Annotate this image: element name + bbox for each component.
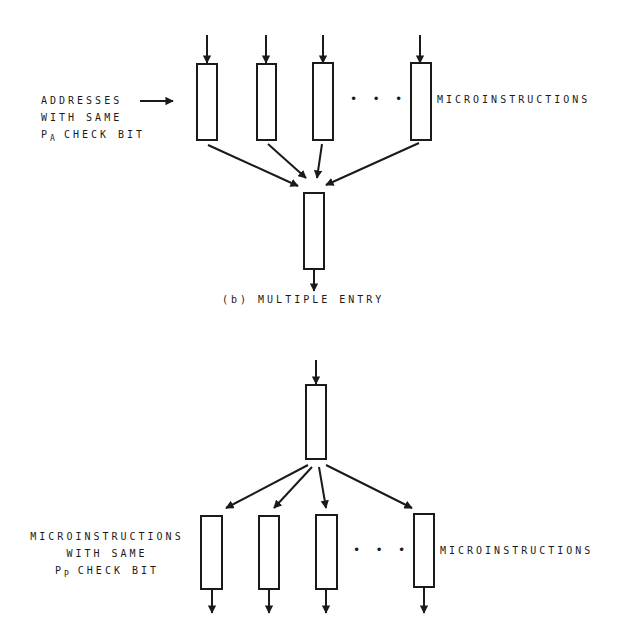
microinstruction-box	[201, 516, 222, 589]
microinstruction-box	[313, 63, 333, 140]
microinstruction-box	[316, 515, 337, 589]
pp-symbol: P	[55, 565, 64, 576]
converge-arrow	[317, 144, 322, 178]
bottom-label-line1: MICROINSTRUCTIONS	[22, 528, 192, 545]
microinstructions-label-top: MICROINSTRUCTIONS	[437, 91, 590, 108]
microinstruction-box	[411, 63, 431, 140]
bottom-label-line2: WITH SAME	[22, 545, 192, 562]
microinstruction-box	[259, 516, 279, 589]
microinstruction-box	[414, 514, 434, 587]
converge-arrow	[268, 144, 306, 178]
branch-source-box	[306, 385, 326, 459]
microinstructions-same-check-label: MICROINSTRUCTIONS WITH SAME PP CHECK BIT	[22, 528, 192, 583]
multiple-entry-diagram	[140, 35, 431, 291]
pa-symbol: P	[41, 129, 50, 140]
check-bit-text: CHECK BIT	[55, 129, 145, 140]
microinstruction-box	[257, 64, 276, 140]
diverge-arrow	[319, 467, 326, 508]
diverge-arrow	[226, 465, 308, 508]
figure-caption: (b) MULTIPLE ENTRY	[222, 291, 384, 308]
ellipsis: • • •	[353, 542, 409, 559]
microinstructions-label-bottom: MICROINSTRUCTIONS	[440, 542, 593, 559]
multiple-exit-diagram	[201, 360, 434, 613]
shared-entry-box	[304, 193, 324, 269]
check-bit-text: CHECK BIT	[69, 565, 159, 576]
diverge-arrow	[326, 465, 412, 508]
addresses-label-line3: PA CHECK BIT	[41, 126, 145, 147]
ellipsis: • • •	[350, 91, 406, 108]
addresses-label-line2: WITH SAME	[41, 109, 145, 126]
converge-arrow	[208, 145, 298, 186]
converge-arrow	[326, 143, 419, 185]
addresses-label-line1: ADDRESSES	[41, 92, 145, 109]
bottom-label-line3: PP CHECK BIT	[22, 562, 192, 583]
microinstruction-box	[197, 64, 217, 140]
addresses-label: ADDRESSES WITH SAME PA CHECK BIT	[41, 92, 145, 147]
